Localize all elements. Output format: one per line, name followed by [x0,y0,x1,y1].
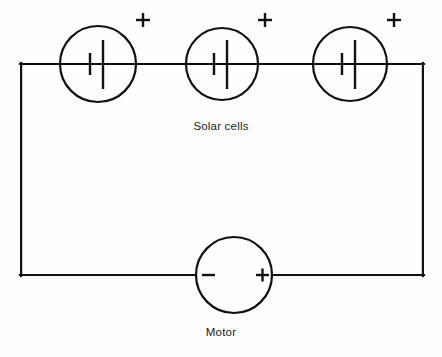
circuit-diagram: Solar cells Motor [0,0,442,357]
solar-cell-3-plus-sign [387,13,401,27]
solar-cells-label: Solar cells [0,120,442,132]
motor[interactable] [196,237,272,313]
motor-label: Motor [0,326,442,338]
solar-cell-2-plus-sign [258,13,272,27]
circuit-schematic-svg [0,0,442,357]
circuit-wires [20,63,424,276]
solar-cell-1-plus-sign [136,13,150,27]
